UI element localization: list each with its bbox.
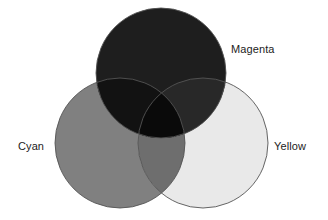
label-magenta: Magenta: [231, 43, 275, 56]
venn-diagram-canvas: [0, 0, 328, 220]
venn-diagram: Magenta Cyan Yellow: [0, 0, 328, 220]
label-yellow: Yellow: [274, 140, 306, 153]
label-cyan: Cyan: [18, 140, 44, 153]
